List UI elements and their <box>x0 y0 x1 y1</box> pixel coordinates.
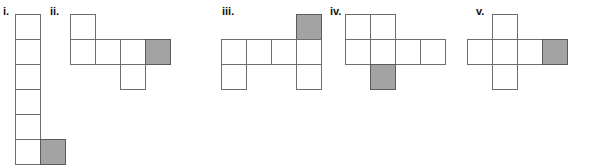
square <box>221 64 247 90</box>
square <box>296 39 322 65</box>
figure-iv-grid <box>345 14 446 90</box>
square <box>517 39 543 65</box>
square <box>15 114 41 140</box>
square <box>15 39 41 65</box>
figure-iv-label: iv. <box>330 6 341 17</box>
square <box>420 39 446 65</box>
figure-ii-grid <box>70 14 171 90</box>
square <box>70 14 96 40</box>
square <box>492 14 518 40</box>
square <box>70 39 96 65</box>
shaded-square <box>296 14 322 40</box>
figure-iii-grid <box>221 14 322 90</box>
square <box>296 64 322 90</box>
figure-i-grid <box>15 14 66 165</box>
square <box>221 39 247 65</box>
square <box>120 64 146 90</box>
square <box>345 14 371 40</box>
square <box>395 39 421 65</box>
square <box>95 39 121 65</box>
square <box>370 39 396 65</box>
shaded-square <box>40 139 66 165</box>
square <box>15 64 41 90</box>
square <box>370 14 396 40</box>
square <box>15 139 41 165</box>
square <box>492 64 518 90</box>
square <box>492 39 518 65</box>
square <box>120 39 146 65</box>
square <box>246 39 272 65</box>
square <box>15 14 41 40</box>
square <box>345 39 371 65</box>
square <box>271 39 297 65</box>
square <box>15 89 41 115</box>
shaded-square <box>542 39 568 65</box>
figure-i-label: i. <box>3 6 9 17</box>
figure-ii-label: ii. <box>50 6 59 17</box>
figure-v-grid <box>467 14 568 90</box>
square <box>467 39 493 65</box>
shaded-square <box>145 39 171 65</box>
shaded-square <box>370 64 396 90</box>
